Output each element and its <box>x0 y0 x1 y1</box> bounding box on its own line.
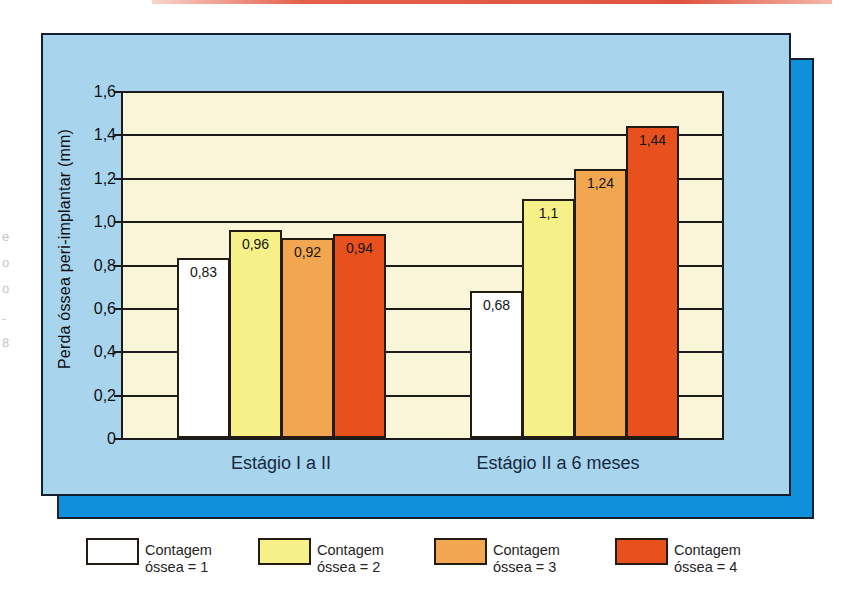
y-tick-label: 0,4 <box>60 342 116 362</box>
bar: 0,94 <box>333 234 386 438</box>
bar: 0,96 <box>229 230 282 438</box>
bar-value-label: 0,83 <box>179 264 228 280</box>
bar-value-label: 0,92 <box>283 244 332 260</box>
y-tick-label: 0,8 <box>60 256 116 276</box>
bar: 1,44 <box>626 126 679 438</box>
x-category-label: Estágio II a 6 meses <box>476 453 639 474</box>
bar: 0,68 <box>470 291 523 438</box>
bar-value-label: 0,94 <box>335 240 384 256</box>
bar: 0,83 <box>177 258 230 438</box>
bar-value-label: 1,44 <box>628 132 677 148</box>
bar: 0,92 <box>281 238 334 438</box>
y-tick-label: 0,2 <box>60 386 116 406</box>
bar-value-label: 1,1 <box>524 205 573 221</box>
chart-layer: 1,61,41,21,00,80,60,40,200,830,960,920,9… <box>0 0 845 614</box>
y-tick-label: 1,4 <box>60 125 116 145</box>
y-tick-label: 1,6 <box>60 82 116 102</box>
bar-value-label: 1,24 <box>576 175 625 191</box>
y-tick-label: 1,0 <box>60 212 116 232</box>
y-tick-label: 1,2 <box>60 169 116 189</box>
bar-value-label: 0,68 <box>472 297 521 313</box>
x-category-label: Estágio I a II <box>231 453 331 474</box>
y-tick-label: 0,6 <box>60 299 116 319</box>
scanned-chart-page: eoo-8 Perda óssea peri-implantar (mm) 1,… <box>0 0 845 614</box>
bar-value-label: 0,96 <box>231 236 280 252</box>
bar: 1,1 <box>522 199 575 438</box>
bar: 1,24 <box>574 169 627 438</box>
y-tick-label: 0 <box>60 429 116 449</box>
